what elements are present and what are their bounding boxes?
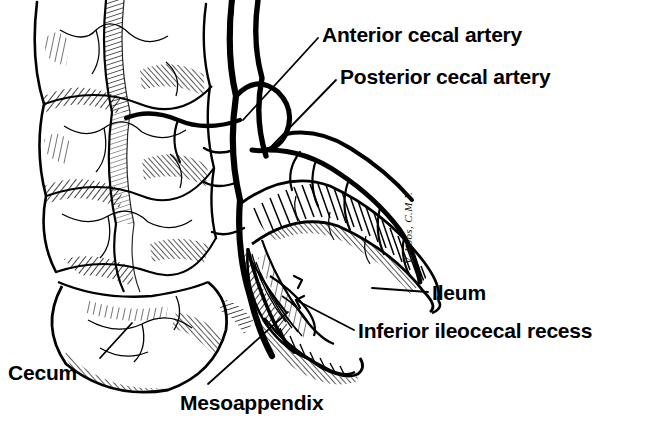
label-cecum: Cecum [8,362,77,383]
label-posterior-cecal-artery: Posterior cecal artery [340,66,550,87]
anatomical-figure: Anterior cecal artery Posterior cecal ar… [0,0,662,440]
leader-cecum [100,323,132,358]
artist-signature: V. Loos, C.M.I. [402,192,414,264]
illustration-canvas [0,0,662,440]
label-anterior-cecal-artery: Anterior cecal artery [322,24,522,45]
label-inferior-ileocecal-recess: Inferior ileocecal recess [358,320,592,341]
label-mesoappendix: Mesoappendix [180,392,323,413]
cecum-haustra-group [35,0,216,292]
label-ileum: Ileum [432,282,486,303]
